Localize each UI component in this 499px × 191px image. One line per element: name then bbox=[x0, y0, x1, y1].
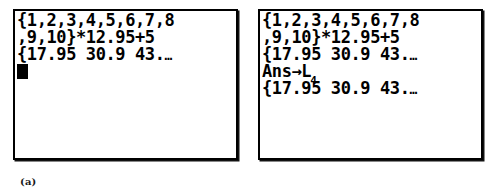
truncation-ellipsis: … bbox=[165, 48, 172, 63]
truncation-ellipsis: … bbox=[410, 48, 417, 63]
calculator-panel-b: {1,2,3,4,5,6,7,8 ,9,10}*12.95+5 {17.95 3… bbox=[258, 9, 483, 160]
calculator-figure: {1,2,3,4,5,6,7,8 ,9,10}*12.95+5 {17.95 3… bbox=[0, 0, 499, 191]
text-cursor bbox=[17, 64, 28, 79]
truncation-ellipsis: … bbox=[410, 82, 417, 97]
screen-line: {17.95 30.9 43.… bbox=[17, 46, 236, 63]
calculator-screen-b[interactable]: {1,2,3,4,5,6,7,8 ,9,10}*12.95+5 {17.95 3… bbox=[258, 9, 483, 160]
calculator-screen-a[interactable]: {1,2,3,4,5,6,7,8 ,9,10}*12.95+5 {17.95 3… bbox=[13, 9, 238, 160]
screen-line-text: {17.95 30.9 43. bbox=[262, 78, 410, 98]
calculator-panel-a: {1,2,3,4,5,6,7,8 ,9,10}*12.95+5 {17.95 3… bbox=[13, 9, 238, 160]
screen-text-area-a: {1,2,3,4,5,6,7,8 ,9,10}*12.95+5 {17.95 3… bbox=[17, 12, 236, 158]
screen-line-text: {17.95 30.9 43. bbox=[17, 44, 165, 64]
panel-caption-a: (a) bbox=[20, 176, 37, 187]
screen-cursor-line bbox=[17, 63, 236, 80]
screen-line: {17.95 30.9 43.… bbox=[262, 80, 481, 97]
screen-text-area-b: {1,2,3,4,5,6,7,8 ,9,10}*12.95+5 {17.95 3… bbox=[262, 12, 481, 158]
